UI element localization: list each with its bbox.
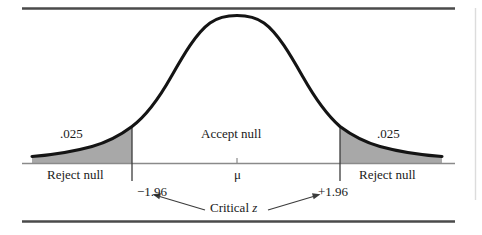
left-tail-probability-label: .025 xyxy=(60,126,83,142)
critical-value-upper-label: +1.96 xyxy=(318,184,348,200)
critical-z-statistic: z xyxy=(252,200,257,215)
right-tail-probability-label: .025 xyxy=(377,126,400,142)
accept-null-label: Accept null xyxy=(201,126,261,142)
mean-symbol-label: μ xyxy=(234,167,241,183)
critical-z-caption: Critical z xyxy=(210,200,257,216)
critical-leader-right xyxy=(268,196,315,210)
critical-value-lower-label: −1.96 xyxy=(137,184,167,200)
reject-null-label-right: Reject null xyxy=(359,167,416,183)
critical-z-prefix: Critical xyxy=(210,200,252,215)
reject-null-label-left: Reject null xyxy=(47,167,104,183)
